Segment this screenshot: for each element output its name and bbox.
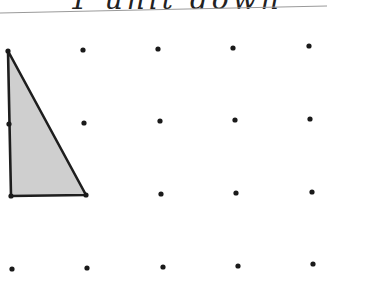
grid-dot [309, 189, 314, 194]
grid-dot [307, 116, 312, 121]
grid-dot [84, 265, 89, 270]
dot-grid-worksheet: 1 unit down [0, 0, 369, 298]
shaded-triangle [8, 51, 86, 196]
grid-dot [157, 118, 162, 123]
grid-dot [83, 192, 88, 197]
grid-dot [5, 48, 10, 53]
grid-dot [9, 266, 14, 271]
grid-dot [80, 47, 85, 52]
grid-dot [233, 190, 238, 195]
grid-dot [160, 264, 165, 269]
grid-dot [230, 45, 235, 50]
grid-dot [155, 46, 160, 51]
grid-dot [158, 191, 163, 196]
grid-dot [235, 263, 240, 268]
grid-dot [6, 121, 11, 126]
grid-dot [306, 43, 311, 48]
grid-dot [232, 117, 237, 122]
grid-dot [81, 120, 86, 125]
caption-underline [0, 6, 327, 13]
grid-dot [8, 193, 13, 198]
grid-dot [310, 261, 315, 266]
dot-grid-canvas [0, 0, 369, 298]
